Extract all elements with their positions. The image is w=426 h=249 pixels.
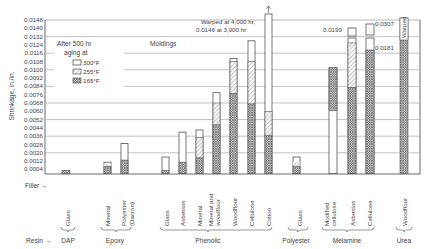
svg-text:Cotton: Cotton [265,207,272,226]
svg-text:Modified: Modified [323,202,330,226]
svg-text:0.0181: 0.0181 [375,44,394,51]
svg-text:Asbestos: Asbestos [179,201,186,226]
svg-text:0.0148: 0.0148 [24,16,43,23]
svg-text:300°F: 300°F [83,59,100,66]
legend-swatch-255 [73,69,81,74]
svg-text:0.0084: 0.0084 [24,82,43,89]
svg-text:0.0044: 0.0044 [24,124,43,131]
svg-text:Cellulose: Cellulose [248,200,255,226]
svg-text:Glass: Glass [296,210,303,226]
legend-swatch-165 [73,78,81,83]
svg-text:0.0146 at 3,000 hr: 0.0146 at 3,000 hr [196,26,246,33]
bar-phenolic-woodflour [230,58,237,173]
bar-phenolic-mineral [196,130,203,174]
moldings-label: Moldings [150,40,177,48]
bar-dap-glass [62,171,70,174]
svg-text:Melamine: Melamine [333,237,362,244]
svg-text:Urea: Urea [397,237,412,244]
svg-text:Woodflour: Woodflour [231,198,238,226]
svg-text:0.0199: 0.0199 [323,26,342,33]
shrinkage-bar-chart: Shrinkage, in./in. 0.0148 0.0140 0.0132 … [0,0,426,249]
svg-text:0.0076: 0.0076 [24,91,43,98]
svg-text:Asbestos: Asbestos [349,201,356,226]
svg-text:Glass: Glass [163,210,170,226]
svg-text:Cellulose: Cellulose [366,200,373,226]
bar-epoxy-polyester [121,144,128,174]
svg-text:Resin →: Resin → [26,237,51,244]
filler-labels: Glass Mineral Polyester (Dacron) Glass A… [64,193,408,227]
svg-text:0.0060: 0.0060 [24,107,43,114]
svg-text:Mineral: Mineral [196,206,203,226]
resin-labels: Resin → DAP Epoxy Phenolic Polyester Mel… [26,237,411,245]
y-axis-ticks: 0.0148 0.0140 0.0132 0.0124 0.0116 0.010… [24,16,43,172]
svg-text:165°F: 165°F [83,77,100,84]
svg-text:0.0052: 0.0052 [24,116,43,123]
svg-text:0.0012: 0.0012 [24,157,43,164]
bar-urea-woodflour [400,18,408,174]
svg-text:Warped at 4,000 hr,: Warped at 4,000 hr, [201,18,255,25]
bar-polyester-glass [293,157,300,174]
y-axis-label: Shrinkage, in./in. [8,71,16,120]
svg-text:0.0020: 0.0020 [24,149,43,156]
svg-text:cellulose: cellulose [330,201,337,226]
svg-text:255°F: 255°F [83,68,100,75]
annotations: Warped at 4,000 hr, 0.0146 at 3,000 hr 0… [196,16,407,51]
svg-text:DAP: DAP [61,237,75,244]
svg-text:0.0124: 0.0124 [24,41,43,48]
svg-text:0.0028: 0.0028 [24,141,43,148]
svg-text:After 500 hr: After 500 hr [57,40,92,47]
svg-text:0.0132: 0.0132 [24,33,43,40]
svg-text:Polyester: Polyester [282,237,310,245]
svg-text:0.0092: 0.0092 [24,74,43,81]
svg-text:woodflour: woodflour [214,199,221,227]
svg-text:aging at: aging at [64,49,88,57]
bar-phenolic-mineral-woodflour [213,93,220,174]
svg-text:0.0140: 0.0140 [24,24,43,31]
legend-swatch-300 [73,60,81,65]
bar-phenolic-cellulose [248,41,255,174]
svg-text:Glass: Glass [64,210,71,226]
filler-axis-label: Filler → [25,182,48,189]
bar-phenolic-glass [162,157,169,174]
svg-text:(Dacron): (Dacron) [128,202,135,226]
bar-melamine-modified-cellulose [329,68,337,174]
svg-text:Epoxy: Epoxy [106,237,125,245]
svg-text:Warped: Warped [400,16,407,38]
svg-text:Mineral: Mineral [104,206,111,226]
bar-melamine-cellulose [366,24,374,174]
bar-phenolic-cotton [265,6,272,174]
svg-text:0.0307: 0.0307 [375,20,394,27]
svg-text:Mineral and: Mineral and [207,193,214,226]
svg-text:0.0100: 0.0100 [24,66,43,73]
svg-text:0.0068: 0.0068 [24,99,43,106]
svg-text:0.0004: 0.0004 [24,165,43,172]
svg-text:0.0036: 0.0036 [24,132,43,139]
svg-text:0.0108: 0.0108 [24,58,43,65]
svg-text:Polyester: Polyester [120,200,127,226]
bar-phenolic-asbestos [179,132,186,174]
legend: After 500 hr aging at 300°F 255°F 165°F [54,40,124,90]
resin-braces [61,227,412,232]
svg-text:0.0116: 0.0116 [25,49,44,56]
svg-text:Woodflour: Woodflour [401,198,408,226]
svg-text:Phenolic: Phenolic [195,237,221,244]
bar-melamine-asbestos [348,28,356,174]
bar-epoxy-mineral [104,162,111,173]
